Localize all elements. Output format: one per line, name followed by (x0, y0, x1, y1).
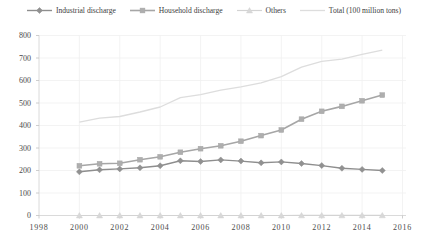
diamond-marker (238, 158, 244, 164)
y-axis-tick-label: 600 (19, 76, 31, 85)
x-axis-tick-label: 2006 (191, 223, 210, 232)
diamond-marker (379, 168, 385, 174)
line-chart-plot: 0100200300400500600700800199820002002200… (0, 0, 427, 243)
x-axis-tick-label: 2010 (272, 223, 291, 232)
x-axis-tick-label: 2008 (232, 223, 251, 232)
diamond-marker (157, 163, 163, 169)
diamond-marker (76, 169, 82, 175)
diamond-marker (117, 166, 123, 172)
y-axis-tick-label: 700 (19, 54, 31, 63)
x-axis-tick-label: 1998 (30, 223, 49, 232)
diamond-marker (218, 157, 224, 163)
y-axis-tick-label: 200 (19, 166, 31, 175)
diamond-marker (299, 161, 305, 167)
square-marker (239, 139, 244, 144)
square-marker (178, 150, 183, 155)
y-axis-tick-label: 100 (19, 189, 31, 198)
square-marker (299, 117, 304, 122)
diamond-marker (319, 163, 325, 169)
square-marker (158, 154, 163, 159)
square-marker (218, 143, 223, 148)
diamond-marker (278, 159, 284, 165)
y-axis-tick-label: 0 (27, 211, 31, 220)
square-marker (117, 161, 122, 166)
diamond-marker (137, 165, 143, 171)
series-total-100-million-tons (79, 50, 382, 122)
square-marker (360, 98, 365, 103)
diamond-marker (177, 158, 183, 164)
x-axis-tick-label: 2000 (70, 223, 89, 232)
series-industrial-discharge (76, 157, 385, 175)
y-axis-tick-label: 400 (19, 121, 31, 130)
square-marker (138, 157, 143, 162)
series-household-discharge (77, 93, 385, 168)
square-marker (97, 161, 102, 166)
x-axis-tick-label: 2004 (151, 223, 170, 232)
square-marker (340, 104, 345, 109)
diamond-marker (359, 166, 365, 172)
square-marker (319, 109, 324, 114)
x-axis-tick-label: 2014 (353, 223, 372, 232)
square-marker (77, 163, 82, 168)
series-others (76, 212, 385, 217)
x-axis-tick-label: 2002 (110, 223, 129, 232)
diamond-marker (97, 167, 103, 173)
square-marker (380, 93, 385, 98)
diamond-marker (198, 159, 204, 165)
square-marker (279, 128, 284, 133)
series-line-household-discharge (79, 95, 382, 166)
square-marker (259, 133, 264, 138)
y-axis-tick-label: 800 (19, 31, 31, 40)
series-line-total-100-million-tons (79, 50, 382, 122)
x-axis-tick-label: 2012 (312, 223, 331, 232)
wastewater-discharge-line-chart: Industrial dischargeHousehold dischargeO… (0, 0, 427, 243)
square-marker (198, 146, 203, 151)
y-axis-tick-label: 300 (19, 144, 31, 153)
y-axis-tick-label: 500 (19, 99, 31, 108)
x-axis-tick-label: 2016 (393, 223, 412, 232)
diamond-marker (258, 160, 264, 166)
